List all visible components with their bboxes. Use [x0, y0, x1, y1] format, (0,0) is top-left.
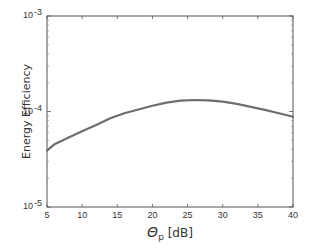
x-tick-label: 30 [218, 210, 228, 220]
data-line [47, 100, 293, 151]
x-tick-label: 20 [147, 210, 157, 220]
x-tick-label: 5 [44, 210, 49, 220]
plot-frame [47, 16, 293, 207]
x-tick-label: 10 [77, 210, 87, 220]
y-tick-label: 10 [23, 201, 33, 211]
x-tick-label: 25 [183, 210, 193, 220]
chart: 51015202530354010-510-410-3Energy Effici… [0, 0, 311, 248]
y-tick-exponent: -5 [34, 198, 42, 208]
x-tick-label: 35 [253, 210, 263, 220]
y-tick-exponent: -3 [34, 7, 42, 17]
y-tick-label: 10 [23, 10, 33, 20]
x-tick-label: 40 [288, 210, 298, 220]
x-tick-label: 15 [112, 210, 122, 220]
y-tick-exponent: -4 [34, 103, 42, 113]
x-axis-title: Θp [dB] [147, 224, 193, 242]
y-axis-title: Energy Efficiency [20, 64, 33, 159]
